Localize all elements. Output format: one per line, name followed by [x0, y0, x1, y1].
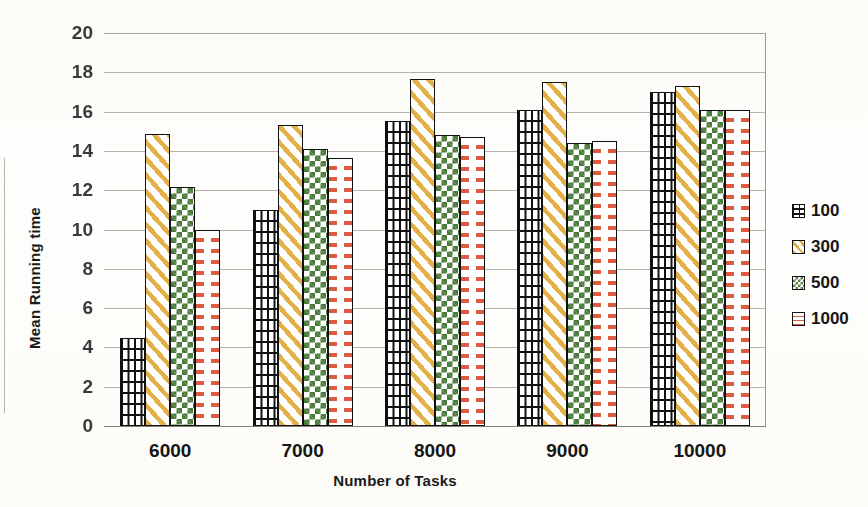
bar-500-9000[interactable]	[567, 143, 592, 426]
x-tick-label: 8000	[414, 440, 456, 462]
legend-swatch-icon	[792, 204, 805, 218]
bar-1000-9000[interactable]	[592, 141, 617, 426]
legend-label: 1000	[811, 309, 849, 329]
gridline-0: 0	[104, 426, 766, 427]
page-edge-rule	[4, 158, 5, 413]
bar-500-10000[interactable]	[700, 110, 725, 426]
plot-area: 20181614121086420 600070008000900010000	[104, 33, 766, 426]
bar-100-7000[interactable]	[253, 210, 278, 426]
bar-100-9000[interactable]	[517, 110, 542, 426]
x-tick-label: 10000	[673, 440, 726, 462]
bar-chart: Mean Running time Number of Tasks 201816…	[0, 0, 868, 507]
bar-100-8000[interactable]	[385, 121, 410, 426]
chart-legend: 1003005001000	[792, 193, 866, 337]
bar-group: 9000	[501, 33, 633, 426]
y-tick-label: 2	[82, 376, 93, 398]
bar-group: 10000	[634, 33, 766, 426]
x-tick-label: 6000	[149, 440, 191, 462]
bar-1000-10000[interactable]	[725, 110, 750, 426]
y-tick-label: 8	[82, 258, 93, 280]
y-tick-label: 16	[72, 101, 93, 123]
y-tick-label: 0	[82, 415, 93, 437]
legend-swatch-icon	[792, 240, 805, 254]
legend-swatch-icon	[792, 276, 805, 290]
x-axis-title: Number of Tasks	[0, 472, 790, 489]
legend-item-1000[interactable]: 1000	[792, 301, 866, 337]
bar-1000-7000[interactable]	[328, 158, 353, 426]
y-axis-title-text: Mean Running time	[26, 163, 43, 393]
bar-100-6000[interactable]	[120, 338, 145, 426]
bar-300-10000[interactable]	[675, 86, 700, 426]
x-tick-label: 9000	[546, 440, 588, 462]
y-tick-label: 6	[82, 297, 93, 319]
bar-100-10000[interactable]	[650, 92, 675, 426]
bar-300-9000[interactable]	[542, 82, 567, 426]
legend-label: 100	[811, 201, 839, 221]
bar-1000-8000[interactable]	[460, 137, 485, 426]
y-tick-label: 12	[72, 179, 93, 201]
bar-groups: 600070008000900010000	[104, 33, 766, 426]
bar-500-7000[interactable]	[303, 149, 328, 426]
bar-1000-6000[interactable]	[195, 230, 220, 427]
bar-300-8000[interactable]	[410, 79, 435, 426]
y-tick-label: 18	[72, 61, 93, 83]
y-tick-label: 4	[82, 336, 93, 358]
bar-group: 8000	[369, 33, 501, 426]
y-tick-label: 10	[72, 219, 93, 241]
legend-label: 300	[811, 237, 839, 257]
y-tick-label: 14	[72, 140, 93, 162]
bar-300-6000[interactable]	[145, 134, 170, 426]
y-axis-title: Mean Running time	[26, 0, 48, 163]
bar-group: 6000	[104, 33, 236, 426]
legend-item-100[interactable]: 100	[792, 193, 866, 229]
legend-label: 500	[811, 273, 839, 293]
bar-500-6000[interactable]	[170, 187, 195, 426]
legend-item-500[interactable]: 500	[792, 265, 866, 301]
y-tick-label: 20	[72, 22, 93, 44]
bar-500-8000[interactable]	[435, 135, 460, 426]
legend-swatch-icon	[792, 312, 805, 326]
bar-300-7000[interactable]	[278, 125, 303, 426]
legend-item-300[interactable]: 300	[792, 229, 866, 265]
x-tick-label: 7000	[281, 440, 323, 462]
bar-group: 7000	[236, 33, 368, 426]
